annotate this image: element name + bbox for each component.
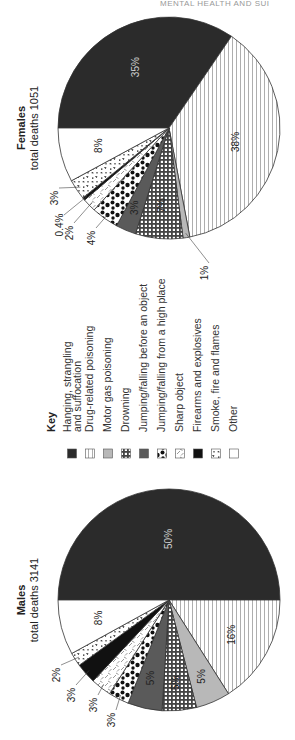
slice-label-sharp: 3%	[88, 698, 99, 713]
female-chart-title: Females total deaths 1051	[15, 86, 40, 170]
legend-label-sharp: Sharp object	[173, 373, 185, 432]
legend-swatch-jump_high	[158, 449, 167, 458]
slice-label-smoke: 2%	[51, 668, 62, 683]
legend-swatch-drug	[86, 449, 95, 458]
slice-label-hanging: 35%	[130, 57, 141, 77]
leader-line-firearms	[76, 670, 89, 685]
legend-label-firearms: Firearms and explosives	[191, 318, 203, 432]
running-header: MENTAL HEALTH AND SUI	[160, 0, 269, 8]
leader-line-jump_high	[96, 215, 107, 228]
male-pie-chart: 50%16%5%5%5%3%3%3%2%8%	[51, 489, 280, 727]
slice-label-drug: 38%	[230, 132, 241, 152]
slice-label-firearms: 0.4%	[54, 213, 65, 236]
slice-label-other: 8%	[93, 611, 104, 626]
legend-swatch-firearms	[194, 449, 203, 458]
legend-label-drug: Drug-related poisoning	[83, 326, 95, 432]
legend-item-firearms: Firearms and explosives	[191, 318, 203, 458]
legend-item-smoke: Smoke, fire and flames	[209, 325, 221, 458]
legend: Key Hanging, stranglingand suffocationDr…	[45, 278, 239, 458]
legend-title: Key	[45, 411, 57, 432]
slice-label-jump_before: 3%	[129, 200, 140, 215]
female-title-text: Females	[15, 106, 27, 150]
legend-swatch-drowning	[122, 449, 131, 458]
figure-page: MENTAL HEALTH AND SUI 35%38%1%7%3%4%2%0.…	[0, 0, 295, 740]
female-subtitle-text: total deaths 1051	[28, 86, 40, 170]
legend-item-jump_before: Jumping/falling before an object	[137, 284, 149, 458]
legend-label-jump_before: Jumping/falling before an object	[137, 284, 149, 432]
slice-label-jump_high: 3%	[106, 713, 117, 728]
legend-item-drug: Drug-related poisoning	[83, 326, 95, 458]
legend-item-jump_high: Jumping/falling from a high place	[155, 278, 167, 458]
slice-label-motor_gas: 5%	[196, 669, 207, 684]
female-pie-chart: 35%38%1%7%3%4%2%0.4%3%8%	[49, 17, 280, 280]
legend-label-motor_gas: Motor gas poisoning	[101, 337, 113, 432]
slice-label-sharp: 2%	[64, 226, 75, 241]
legend-swatch-sharp	[176, 449, 185, 458]
legend-label-drowning: Drowning	[119, 387, 131, 432]
leader-line-sharp	[74, 202, 92, 223]
slice-label-jump_before: 5%	[145, 671, 156, 686]
slice-label-firearms: 3%	[66, 688, 77, 703]
slice-label-drowning: 5%	[170, 676, 181, 691]
legend-swatch-other	[230, 449, 239, 458]
male-chart-title: Males total deaths 3141	[15, 558, 40, 642]
male-subtitle-text: total deaths 3141	[28, 558, 40, 642]
slice-label-motor_gas: 1%	[199, 266, 210, 281]
slice-label-drug: 16%	[226, 625, 237, 645]
legend-label-smoke: Smoke, fire and flames	[209, 325, 221, 432]
male-title-text: Males	[15, 585, 27, 616]
pie-chart-figure: MENTAL HEALTH AND SUI 35%38%1%7%3%4%2%0.…	[0, 0, 295, 740]
slice-label-drowning: 7%	[156, 198, 167, 213]
legend-item-motor_gas: Motor gas poisoning	[101, 337, 113, 458]
slice-label-other: 8%	[93, 138, 104, 153]
legend-item-other: Other	[227, 405, 239, 458]
legend-label-hanging: and suffocation	[71, 361, 83, 432]
slice-label-jump_high: 4%	[86, 231, 97, 246]
legend-swatch-smoke	[212, 449, 221, 458]
legend-item-drowning: Drowning	[119, 387, 131, 458]
slice-label-smoke: 3%	[49, 191, 60, 206]
legend-label-jump_high: Jumping/falling from a high place	[155, 278, 167, 432]
legend-swatch-jump_before	[140, 449, 149, 458]
slice-label-hanging: 50%	[163, 529, 174, 549]
legend-item-sharp: Sharp object	[173, 373, 185, 458]
legend-swatch-hanging	[68, 449, 77, 458]
legend-item-hanging: Hanging, stranglingand suffocation	[61, 341, 83, 458]
legend-label-other: Other	[227, 405, 239, 432]
legend-swatch-motor_gas	[104, 449, 113, 458]
leader-line-motor_gas	[186, 233, 209, 263]
